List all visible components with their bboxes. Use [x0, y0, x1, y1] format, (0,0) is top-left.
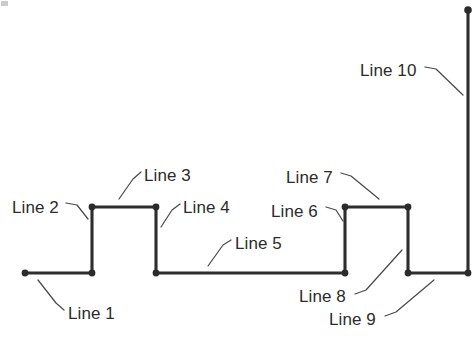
leader-line-line-5	[208, 240, 231, 266]
callout-label-line-6: Line 6	[271, 203, 318, 220]
leader-line-line-4	[161, 204, 180, 227]
callout-label-line-9: Line 9	[329, 311, 376, 328]
leader-line-line-3	[119, 172, 141, 199]
line-diagram-figure: Line 1Line 2Line 3Line 4Line 5Line 6Line…	[0, 0, 475, 338]
vertex-dot	[465, 270, 472, 277]
callout-label-line-4: Line 4	[183, 199, 230, 216]
vertex-dot	[89, 270, 96, 277]
vertex-dot	[342, 204, 349, 211]
callout-label-line-5: Line 5	[235, 235, 282, 252]
vertex-dot	[342, 270, 349, 277]
callout-label-line-7: Line 7	[286, 169, 333, 186]
leader-line-line-8	[355, 250, 402, 294]
callout-label-line-2: Line 2	[12, 199, 59, 216]
vertex-dot	[89, 204, 96, 211]
leader-line-line-9	[385, 280, 434, 316]
vertex-dot	[153, 270, 160, 277]
callout-label-line-8: Line 8	[299, 288, 346, 305]
vertex-dot	[405, 270, 412, 277]
callout-label-line-3: Line 3	[144, 167, 191, 184]
leader-line-line-7	[341, 173, 379, 199]
leader-line-line-10	[425, 67, 463, 95]
leader-line-line-1	[38, 280, 64, 310]
leader-lines-group	[38, 67, 463, 316]
vertex-dot	[464, 6, 472, 14]
leader-line-line-2	[66, 203, 88, 219]
callout-label-line-1: Line 1	[68, 305, 115, 322]
vertex-dot	[22, 270, 29, 277]
callout-label-line-10: Line 10	[360, 62, 416, 79]
vertex-dot	[405, 204, 412, 211]
diagram-canvas	[0, 0, 475, 338]
leader-line-line-6	[326, 207, 343, 221]
vertex-dot	[153, 204, 160, 211]
